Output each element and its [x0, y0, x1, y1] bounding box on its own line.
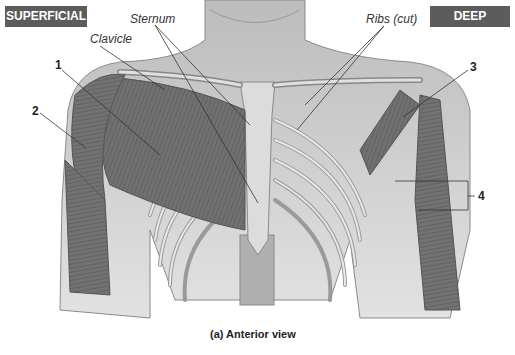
ribs-label: Ribs (cut) [366, 12, 417, 26]
figure-caption: (a) Anterior view [210, 328, 296, 340]
clavicle-label: Clavicle [90, 32, 132, 46]
anatomy-illustration [0, 0, 515, 355]
label-3: 3 [470, 60, 477, 74]
label-4: 4 [478, 189, 485, 203]
deep-badge: DEEP [430, 6, 510, 27]
label-2: 2 [32, 104, 39, 118]
label-1: 1 [55, 58, 62, 72]
superficial-badge: SUPERFICIAL [5, 6, 87, 27]
sternum-label: Sternum [130, 12, 175, 26]
